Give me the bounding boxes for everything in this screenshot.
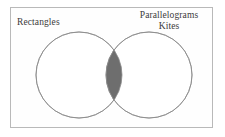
label-parallelograms: Parallelograms (139, 10, 199, 21)
label-rectangles: Rectangles (17, 17, 60, 28)
venn-diagram-figure: Rectangles Parallelograms Kites (0, 0, 225, 137)
label-right-group: Parallelograms Kites (139, 10, 199, 32)
label-kites: Kites (139, 21, 199, 32)
